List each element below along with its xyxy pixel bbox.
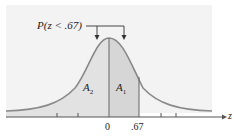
normal-curve-chart <box>0 0 234 136</box>
x-axis-arrow-icon <box>222 115 227 120</box>
probability-annotation: P(z < .67) <box>37 20 82 31</box>
tick-label-067: .67 <box>131 122 144 132</box>
probability-bracket <box>86 26 124 37</box>
region-a2-label: A2 <box>83 82 93 96</box>
tick-label-0: 0 <box>105 122 110 132</box>
x-axis-label: z <box>228 111 232 121</box>
region-a1-label: A1 <box>116 82 126 96</box>
arrow-down-icon <box>122 35 127 40</box>
region-a2 <box>6 38 109 117</box>
arrow-down-icon <box>95 35 100 40</box>
